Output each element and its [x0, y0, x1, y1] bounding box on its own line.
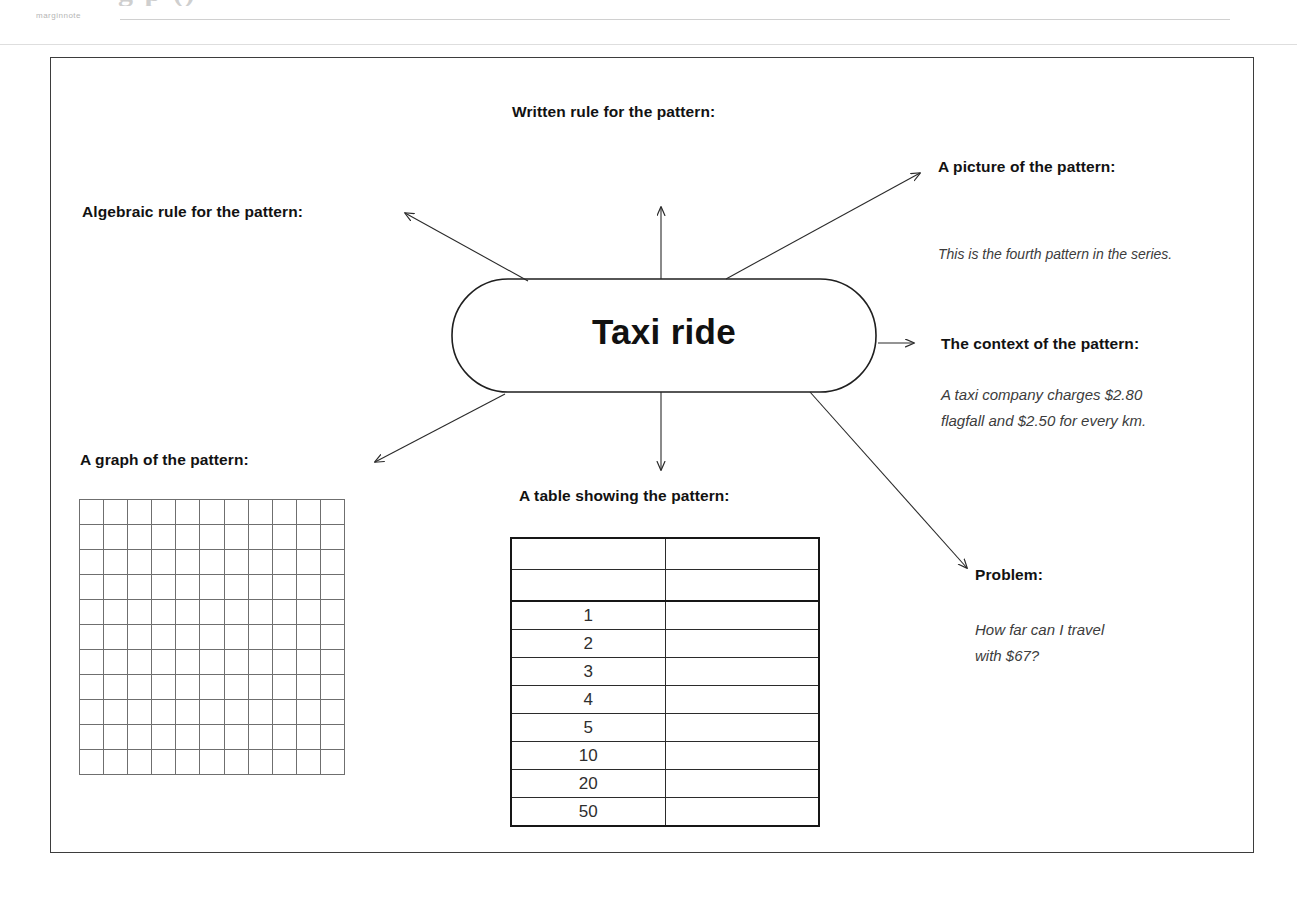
- table-cell-output[interactable]: [665, 714, 819, 742]
- table-cell-output[interactable]: [665, 686, 819, 714]
- table-cell-input[interactable]: 50: [511, 798, 665, 827]
- table-cell-input[interactable]: 10: [511, 742, 665, 770]
- grid-cell: [128, 625, 152, 650]
- graph-grid[interactable]: [79, 499, 345, 775]
- grid-cell: [176, 550, 200, 575]
- body-problem: How far can I travel with $67?: [975, 617, 1225, 669]
- grid-cell: [273, 525, 297, 550]
- table-cell-output[interactable]: [665, 601, 819, 630]
- grid-cell: [321, 650, 345, 675]
- grid-cell: [128, 750, 152, 775]
- grid-cell: [200, 675, 224, 700]
- table-cell-input[interactable]: [511, 570, 665, 602]
- grid-cell: [297, 575, 321, 600]
- grid-cell: [200, 625, 224, 650]
- grid-cell: [104, 750, 128, 775]
- grid-cell: [152, 750, 176, 775]
- grid-cell: [176, 525, 200, 550]
- grid-cell: [176, 700, 200, 725]
- grid-cell: [225, 725, 249, 750]
- grid-cell: [200, 600, 224, 625]
- grid-cell: [104, 700, 128, 725]
- grid-cell: [321, 725, 345, 750]
- grid-cell: [297, 725, 321, 750]
- table-row: 1: [511, 601, 819, 630]
- grid-cell: [200, 525, 224, 550]
- grid-cell: [176, 600, 200, 625]
- body-context: A taxi company charges $2.80 flagfall an…: [941, 382, 1241, 434]
- grid-cell: [176, 750, 200, 775]
- table-cell-input[interactable]: 2: [511, 630, 665, 658]
- grid-cell: [297, 550, 321, 575]
- table-cell-output[interactable]: [665, 630, 819, 658]
- grid-cell: [104, 525, 128, 550]
- grid-cell: [80, 550, 104, 575]
- grid-cell: [80, 500, 104, 525]
- grid-cell: [225, 575, 249, 600]
- table-row: 2: [511, 630, 819, 658]
- grid-cell: [128, 700, 152, 725]
- grid-cell: [321, 525, 345, 550]
- table-cell-output[interactable]: [665, 742, 819, 770]
- grid-cell: [200, 500, 224, 525]
- grid-cell: [152, 625, 176, 650]
- table-cell-output[interactable]: [665, 798, 819, 827]
- grid-cell: [297, 700, 321, 725]
- grid-cell: [297, 525, 321, 550]
- grid-cell: [297, 600, 321, 625]
- grid-cell: [104, 600, 128, 625]
- grid-cell: [104, 650, 128, 675]
- grid-cell: [176, 650, 200, 675]
- grid-cell: [80, 525, 104, 550]
- grid-cell: [273, 600, 297, 625]
- grid-cell: [225, 650, 249, 675]
- label-graph: A graph of the pattern:: [80, 451, 249, 469]
- grid-cell: [80, 700, 104, 725]
- table-cell-input[interactable]: 20: [511, 770, 665, 798]
- table-row: 4: [511, 686, 819, 714]
- grid-cell: [80, 600, 104, 625]
- grid-cell: [80, 725, 104, 750]
- grid-cell: [128, 675, 152, 700]
- grid-cell: [321, 750, 345, 775]
- grid-cell: [152, 550, 176, 575]
- pattern-table[interactable]: 12345102050: [510, 537, 820, 827]
- table-cell-output[interactable]: [665, 570, 819, 602]
- grid-cell: [176, 625, 200, 650]
- grid-cell: [321, 625, 345, 650]
- table-row: 50: [511, 798, 819, 827]
- grid-cell: [249, 550, 273, 575]
- table-cell-output[interactable]: [665, 770, 819, 798]
- grid-cell: [249, 500, 273, 525]
- grid-cell: [249, 675, 273, 700]
- table-cell-output[interactable]: [665, 658, 819, 686]
- grid-cell: [297, 625, 321, 650]
- grid-cell: [273, 650, 297, 675]
- grid-cell: [80, 750, 104, 775]
- grid-cell: [273, 675, 297, 700]
- grid-cell: [176, 725, 200, 750]
- table-cell-input[interactable]: 5: [511, 714, 665, 742]
- grid-cell: [80, 575, 104, 600]
- grid-cell: [321, 550, 345, 575]
- grid-cell: [249, 600, 273, 625]
- grid-cell: [128, 650, 152, 675]
- grid-cell: [104, 725, 128, 750]
- table-row: [511, 570, 819, 602]
- table-cell-input[interactable]: 3: [511, 658, 665, 686]
- label-table: A table showing the pattern:: [519, 487, 730, 505]
- grid-cell: [273, 550, 297, 575]
- grid-cell: [321, 700, 345, 725]
- table-cell-input[interactable]: [511, 538, 665, 570]
- grid-cell: [80, 675, 104, 700]
- table-cell-input[interactable]: 1: [511, 601, 665, 630]
- table-row: [511, 538, 819, 570]
- grid-cell: [225, 675, 249, 700]
- table-cell-output[interactable]: [665, 538, 819, 570]
- table-cell-input[interactable]: 4: [511, 686, 665, 714]
- grid-cell: [273, 500, 297, 525]
- grid-cell: [321, 600, 345, 625]
- grid-cell: [249, 750, 273, 775]
- label-written-rule: Written rule for the pattern:: [512, 103, 715, 121]
- table-row: 3: [511, 658, 819, 686]
